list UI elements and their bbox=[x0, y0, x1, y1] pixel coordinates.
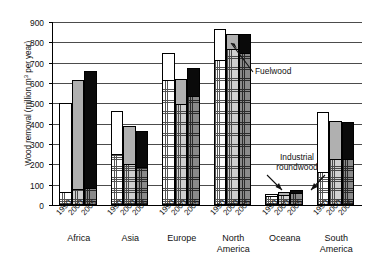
annotation-industrial-roundwood: Industrial roundwood bbox=[268, 152, 326, 172]
bar-asia-2005 bbox=[136, 131, 149, 205]
bar-europe-2000 bbox=[175, 79, 188, 205]
y-axis-tick: 0 bbox=[49, 205, 53, 206]
bar-group: 199020002005Africa bbox=[53, 22, 105, 205]
x-axis-group-label: Asia bbox=[105, 233, 157, 244]
group-label-line: Europe bbox=[167, 233, 196, 243]
y-axis-tick-label: 700 bbox=[30, 59, 44, 67]
bar-segment-fuelwood bbox=[240, 54, 251, 204]
bar-africa-2000 bbox=[72, 80, 85, 205]
bar-group: 199020002005Asia bbox=[105, 22, 157, 205]
bar-segment-industrial-roundwood bbox=[227, 35, 238, 50]
bar-segment-industrial-roundwood bbox=[60, 104, 71, 193]
group-label-line: America bbox=[320, 244, 353, 254]
bar-europe-2005 bbox=[187, 68, 200, 205]
bar-segment-industrial-roundwood bbox=[137, 132, 148, 169]
bar-segment-fuelwood bbox=[227, 50, 238, 204]
bar-segment-industrial-roundwood bbox=[85, 72, 96, 189]
y-axis-tick-label: 600 bbox=[30, 80, 44, 88]
bar-group: 199020002005NorthAmerica bbox=[208, 22, 260, 205]
bar-segment-industrial-roundwood bbox=[343, 123, 354, 160]
x-axis-group-label: Africa bbox=[53, 233, 105, 244]
y-axis-tick-label: 800 bbox=[30, 39, 44, 47]
bar-asia-2000 bbox=[123, 126, 136, 205]
bar-north-america-1990 bbox=[214, 29, 227, 205]
bar-south-america-2005 bbox=[342, 122, 355, 205]
y-axis-tick-label: 900 bbox=[30, 19, 44, 27]
group-label-line: North bbox=[222, 233, 244, 243]
group-label-line: Asia bbox=[121, 233, 139, 243]
bar-north-america-2000 bbox=[226, 34, 239, 205]
group-label-line: Africa bbox=[67, 233, 90, 243]
bar-segment-industrial-roundwood bbox=[73, 81, 84, 190]
bar-segment-fuelwood bbox=[215, 61, 226, 204]
bar-segment-industrial-roundwood bbox=[240, 35, 251, 54]
x-axis-group-label: Europe bbox=[156, 233, 208, 244]
bar-europe-1990 bbox=[162, 53, 175, 206]
bar-segment-industrial-roundwood bbox=[163, 54, 174, 81]
bar-segment-industrial-roundwood bbox=[124, 127, 135, 166]
bar-segment-industrial-roundwood bbox=[215, 30, 226, 61]
y-axis-tick-label: 400 bbox=[30, 120, 44, 128]
x-axis-group-label: Oceana bbox=[259, 233, 311, 244]
bar-segment-fuelwood bbox=[176, 105, 187, 204]
bar-south-america-2000 bbox=[329, 121, 342, 205]
bar-segment-industrial-roundwood bbox=[330, 122, 341, 160]
y-axis-tick-label: 300 bbox=[30, 141, 44, 149]
annotation-industrial-line1: Industrial bbox=[280, 152, 314, 162]
bar-segment-industrial-roundwood bbox=[176, 80, 187, 105]
group-label-line: America bbox=[217, 244, 250, 254]
wood-removal-bar-chart: Wood removal (million m3 per year) 01002… bbox=[0, 0, 373, 264]
annotation-industrial-line2: roundwood bbox=[276, 162, 317, 172]
y-axis-tick-label: 100 bbox=[30, 181, 44, 189]
group-label-line: Oceana bbox=[269, 233, 301, 243]
bar-group: 199020002005SouthAmerica bbox=[311, 22, 363, 205]
bar-group: 199020002005Europe bbox=[156, 22, 208, 205]
bar-africa-1990 bbox=[59, 103, 72, 205]
group-label-line: South bbox=[324, 233, 348, 243]
annotation-fuelwood: Fuelwood bbox=[255, 66, 291, 76]
bar-segment-fuelwood bbox=[163, 81, 174, 204]
y-axis-tick-label: 0 bbox=[39, 202, 44, 210]
y-axis-tick-label: 200 bbox=[30, 161, 44, 169]
bar-group: 199020002005Oceana bbox=[259, 22, 311, 205]
x-axis-group-label: SouthAmerica bbox=[311, 233, 363, 254]
bar-africa-2005 bbox=[84, 71, 97, 205]
bar-segment-fuelwood bbox=[188, 97, 199, 204]
x-axis-group-label: NorthAmerica bbox=[208, 233, 260, 254]
bar-north-america-2005 bbox=[239, 34, 252, 205]
plot-area: 0100200300400500600700800900199020002005… bbox=[52, 22, 362, 206]
bar-segment-industrial-roundwood bbox=[112, 112, 123, 155]
y-axis-tick-label: 500 bbox=[30, 100, 44, 108]
bar-segment-industrial-roundwood bbox=[188, 69, 199, 97]
bar-asia-1990 bbox=[111, 111, 124, 205]
